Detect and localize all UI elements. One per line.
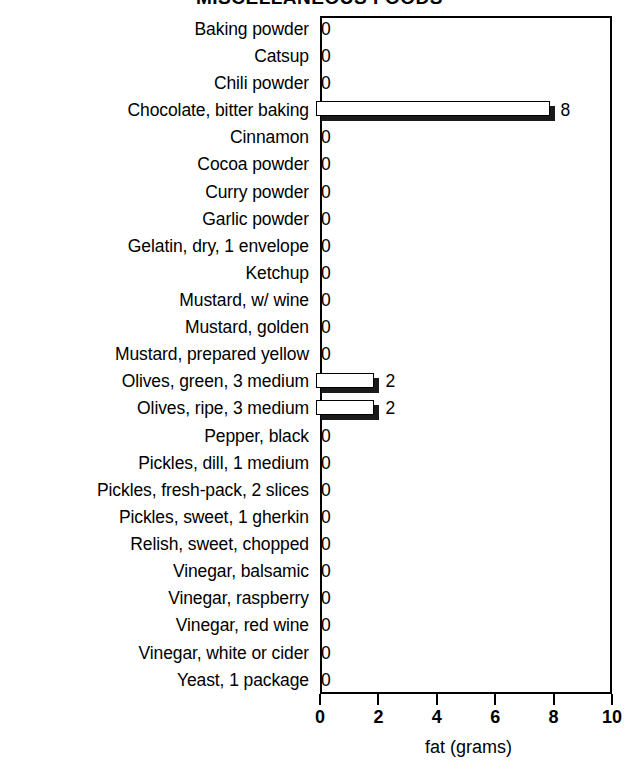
chart-container: MISCELLANEOUS FOODS Baking powder0Catsup… (0, 0, 639, 779)
category-label: Vinegar, raspberry (0, 590, 315, 608)
bar-row: Pickles, dill, 1 medium0 (0, 450, 639, 477)
category-label: Pickles, sweet, 1 gherkin (0, 509, 315, 527)
category-label: Pepper, black (0, 428, 315, 446)
bar-row: Pickles, fresh-pack, 2 slices0 (0, 477, 639, 504)
x-axis: fat (grams) 0246810 (0, 694, 639, 779)
bar-row: Gelatin, dry, 1 envelope0 (0, 233, 639, 260)
bar-track: 0 (315, 314, 639, 341)
category-label: Vinegar, red wine (0, 617, 315, 635)
category-label: Cinnamon (0, 129, 315, 147)
bar-row: Vinegar, white or cider0 (0, 640, 639, 667)
bar-row: Relish, sweet, chopped0 (0, 531, 639, 558)
chart-title: MISCELLANEOUS FOODS (0, 0, 639, 9)
bar-body (316, 101, 550, 116)
bar-row: Cinnamon0 (0, 124, 639, 151)
bar-track: 0 (315, 477, 639, 504)
bar-track: 0 (315, 233, 639, 260)
bar-track: 0 (315, 206, 639, 233)
category-label: Relish, sweet, chopped (0, 536, 315, 554)
bar-value-label: 0 (321, 129, 331, 147)
bar-value-label: 0 (321, 617, 331, 635)
bar-row: Ketchup0 (0, 260, 639, 287)
x-axis-tick-label: 8 (549, 707, 559, 728)
x-axis-tick-label: 6 (490, 707, 500, 728)
bar-track: 0 (315, 613, 639, 640)
bar-value-label: 0 (321, 455, 331, 473)
bar-track: 8 (315, 97, 639, 124)
bar-track: 0 (315, 558, 639, 585)
bar-row: Mustard, w/ wine0 (0, 287, 639, 314)
x-axis-title: fat (grams) (0, 737, 639, 758)
bar-track: 0 (315, 152, 639, 179)
bar-value-label: 0 (321, 319, 331, 337)
x-axis-tick (611, 694, 613, 705)
category-label: Mustard, golden (0, 319, 315, 337)
bar-row: Yeast, 1 package0 (0, 667, 639, 694)
bar-track: 0 (315, 341, 639, 368)
x-axis-tick (436, 694, 438, 705)
category-label: Yeast, 1 package (0, 672, 315, 690)
bar-track: 0 (315, 531, 639, 558)
bar-track: 0 (315, 586, 639, 613)
category-label: Chocolate, bitter baking (0, 102, 315, 120)
x-axis-tick (319, 694, 321, 705)
x-axis-tick-label: 4 (432, 707, 442, 728)
category-label: Mustard, w/ wine (0, 292, 315, 310)
bar-track: 0 (315, 70, 639, 97)
bar-row: Pickles, sweet, 1 gherkin0 (0, 504, 639, 531)
bar-value-label: 2 (385, 373, 395, 391)
bar-row: Olives, green, 3 medium2 (0, 369, 639, 396)
bar-row: Chili powder0 (0, 70, 639, 97)
bar-track: 2 (315, 369, 639, 396)
bar-value-label: 0 (321, 265, 331, 283)
bar-value-label: 0 (321, 482, 331, 500)
category-label: Cocoa powder (0, 156, 315, 174)
bar-track: 0 (315, 504, 639, 531)
category-label: Ketchup (0, 265, 315, 283)
bar-track: 2 (315, 396, 639, 423)
x-axis-tick (377, 694, 379, 705)
bar-row: Catsup0 (0, 43, 639, 70)
bar-row: Mustard, golden0 (0, 314, 639, 341)
x-axis-tick (553, 694, 555, 705)
bar-track: 0 (315, 450, 639, 477)
category-label: Mustard, prepared yellow (0, 346, 315, 364)
x-axis-tick (494, 694, 496, 705)
bar-row: Vinegar, raspberry0 (0, 586, 639, 613)
bar-value-label: 0 (321, 156, 331, 174)
bar-row: Pepper, black0 (0, 423, 639, 450)
category-label: Chili powder (0, 75, 315, 93)
bar-value-label: 0 (321, 590, 331, 608)
bar-value-label: 0 (321, 536, 331, 554)
category-label: Gelatin, dry, 1 envelope (0, 238, 315, 256)
category-label: Vinegar, white or cider (0, 645, 315, 663)
bar-row: Baking powder0 (0, 16, 639, 43)
bar-body (316, 373, 374, 388)
bar-value-label: 0 (321, 238, 331, 256)
bar-value-label: 8 (561, 102, 571, 120)
bar-row: Olives, ripe, 3 medium2 (0, 396, 639, 423)
category-label: Pickles, dill, 1 medium (0, 455, 315, 473)
x-axis-tick-label: 0 (315, 707, 325, 728)
bar-row: Garlic powder0 (0, 206, 639, 233)
bar-value-label: 0 (321, 509, 331, 527)
bar-row: Cocoa powder0 (0, 152, 639, 179)
bar-track: 0 (315, 667, 639, 694)
bar-body (316, 400, 374, 415)
category-label: Pickles, fresh-pack, 2 slices (0, 482, 315, 500)
bar-track: 0 (315, 423, 639, 450)
category-label: Catsup (0, 48, 315, 66)
bar-track: 0 (315, 43, 639, 70)
bar-track: 0 (315, 260, 639, 287)
x-axis-title-text: fat (grams) (425, 737, 512, 757)
x-axis-tick-label: 10 (602, 707, 622, 728)
bar-value-label: 0 (321, 211, 331, 229)
bar-row: Mustard, prepared yellow0 (0, 341, 639, 368)
bar (316, 400, 374, 415)
bar-value-label: 0 (321, 21, 331, 39)
category-label: Olives, ripe, 3 medium (0, 400, 315, 418)
bar-value-label: 0 (321, 48, 331, 66)
x-axis-tick-label: 2 (373, 707, 383, 728)
bar-value-label: 2 (385, 400, 395, 418)
bar-value-label: 0 (321, 563, 331, 581)
